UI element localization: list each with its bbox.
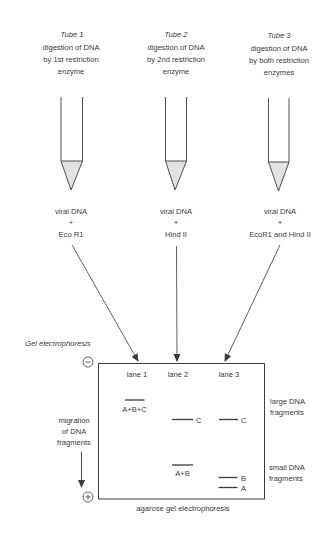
- tube-1-icon: [61, 97, 83, 190]
- tube-3-title: Tube 3: [267, 31, 291, 40]
- positive-electrode-icon: [83, 492, 93, 502]
- lane-2-band-ab: A+B: [172, 465, 193, 478]
- tube-2-desc-line-2: by 2nd restriction: [147, 55, 205, 64]
- tube-1-content-enzyme: Eco R1: [59, 230, 84, 239]
- tube-2-desc-line-3: enzyme: [163, 67, 190, 76]
- tube-1-title: Tube 1: [60, 30, 83, 39]
- tube-2-content-enzyme: Hind II: [165, 230, 187, 239]
- tube-3-contents: viral DNA + EcoR1 and Hind II: [249, 207, 311, 239]
- tube-2-header: Tube 2 digestion of DNA by 2nd restricti…: [147, 30, 205, 76]
- band-label-b: B: [241, 474, 246, 483]
- diagram-canvas: Tube 1 digestion of DNA by 1st restricti…: [0, 0, 333, 533]
- tube-1-content-plus: +: [69, 218, 74, 227]
- lane-1-band-abc: A+B+C: [122, 400, 147, 414]
- tube-3-content-enzyme: EcoR1 and Hind II: [249, 230, 311, 239]
- svg-text:large DNA: large DNA: [270, 397, 306, 406]
- tube-1-desc-line-3: enzyme: [58, 67, 85, 76]
- svg-text:migration: migration: [58, 416, 89, 425]
- svg-text:fragments: fragments: [269, 474, 303, 483]
- tube-3-desc-line-3: enzymes: [264, 68, 295, 77]
- tube-2-content-plus: +: [174, 218, 179, 227]
- band-label-c-lane-3: C: [241, 416, 247, 425]
- tube-2-title: Tube 2: [164, 30, 188, 39]
- tube-2-desc-line-1: digestion of DNA: [148, 43, 206, 52]
- svg-text:small DNA: small DNA: [269, 463, 306, 472]
- gel-box: [99, 364, 265, 500]
- arrow-tube-2-to-lane-2: [177, 246, 178, 361]
- tube-1-content-dna: viral DNA: [55, 207, 88, 216]
- lane-2-label: lane 2: [168, 370, 189, 379]
- tube-3-desc-line-2: by both restriction: [249, 56, 309, 65]
- lane-3-band-b: B: [219, 474, 247, 483]
- svg-text:of DNA: of DNA: [62, 427, 87, 436]
- tube-3-content-dna: viral DNA: [264, 207, 297, 216]
- migration-label: migration of DNA fragments: [57, 416, 91, 447]
- gel-caption: agarose gel electrophoresis: [136, 504, 229, 513]
- tube-2-contents: viral DNA + Hind II: [160, 207, 193, 239]
- tube-1-desc-line-1: digestion of DNA: [43, 43, 101, 52]
- tube-3-desc-line-1: digestion of DNA: [251, 44, 309, 53]
- tube-3-icon: [269, 98, 290, 191]
- tube-2-content-dna: viral DNA: [160, 207, 193, 216]
- lane-3-band-c: C: [219, 416, 247, 425]
- small-fragments-label: small DNA fragments: [269, 463, 306, 483]
- tube-3-content-plus: +: [278, 218, 283, 227]
- band-label-c-lane-2: C: [196, 416, 202, 425]
- large-fragments-label: large DNA fragments: [270, 397, 306, 417]
- tube-2-icon: [166, 97, 187, 190]
- tube-1-contents: viral DNA + Eco R1: [55, 207, 88, 239]
- gel-title: Gel electrophoresis: [25, 339, 91, 348]
- band-label-abc: A+B+C: [122, 405, 147, 414]
- tube-3-header: Tube 3 digestion of DNA by both restrict…: [249, 31, 309, 77]
- lane-1-label: lane 1: [127, 370, 148, 379]
- tube-1-header: Tube 1 digestion of DNA by 1st restricti…: [43, 30, 101, 76]
- band-label-ab: A+B: [175, 469, 190, 478]
- lane-3-band-a: A: [219, 484, 248, 493]
- lane-2-band-c: C: [172, 416, 202, 425]
- arrow-tube-3-to-lane-3: [225, 245, 280, 361]
- tube-1-desc-line-2: by 1st restriction: [43, 55, 98, 64]
- svg-text:fragments: fragments: [270, 408, 304, 417]
- band-label-a: A: [241, 484, 247, 493]
- lane-3-label: lane 3: [219, 370, 240, 379]
- svg-text:fragments: fragments: [57, 438, 91, 447]
- negative-electrode-icon: [83, 357, 93, 367]
